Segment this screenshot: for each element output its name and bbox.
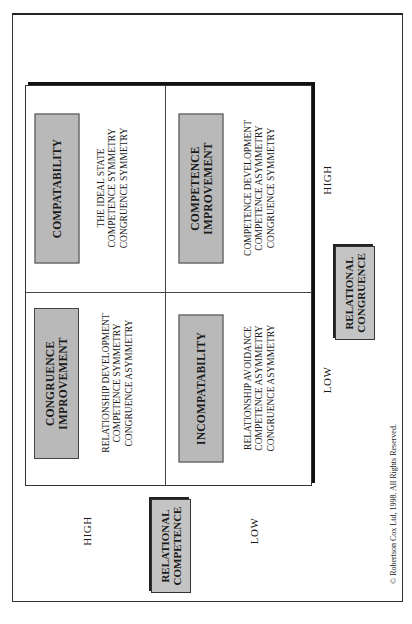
quadrant-incompatability-box: INCOMPATABILITY	[178, 314, 223, 462]
quadrant-title-line: CONGRUENCE	[44, 341, 57, 426]
quadrant-incompatability-description: RELATIONSHIP AVOIDANCE COMPETENCE ASYMME…	[240, 313, 280, 463]
relational-congruence-axis-box: RELATIONAL CONGRUENCE	[335, 246, 375, 340]
copyright-text: © Robertson Cox Ltd, 1998. All Rights Re…	[389, 424, 398, 584]
axis-title-line: CONGRUENCE	[355, 253, 368, 332]
relational-competence-axis-box: RELATIONAL COMPETENCE	[151, 499, 191, 593]
quadrant-compatability-box: COMPATABILITY	[34, 113, 79, 263]
description-line: CONGRUENCE SYMMETRY	[119, 128, 131, 249]
quadrant-title-line: COMPETENCE	[188, 146, 201, 230]
description-line: RELATIONSHIP DEVELOPMENT	[101, 313, 113, 452]
axis-tick-label: LOW	[321, 367, 333, 394]
quadrant-title-line: IMPROVEMENT	[57, 337, 70, 429]
description-line: CONGRUENCE SYMMETRY	[266, 128, 278, 249]
axis-tick-label: HIGH	[81, 516, 93, 546]
competence-high-label: HIGH	[79, 509, 95, 553]
competence-low-label: LOW	[246, 511, 262, 551]
quadrant-title: COMPATABILITY	[50, 138, 63, 238]
description-line: THE IDEAL STATE	[96, 148, 108, 227]
axis-title-line: COMPETENCE	[171, 506, 184, 585]
quadrant-title: INCOMPATABILITY	[194, 332, 207, 445]
quadrant-congruence-improvement-description: RELATIONSHIP DEVELOPMENT COMPETENCE SYMM…	[98, 308, 138, 458]
axis-tick-label: HIGH	[321, 165, 333, 195]
quadrant-congruence-improvement-box: CONGRUENCE IMPROVEMENT	[34, 308, 79, 459]
description-line: CONGRUENCE ASYMMETRY	[124, 320, 136, 447]
description-line: COMPETENCE SYMMETRY	[107, 128, 119, 247]
matrix-horizontal-divider	[25, 292, 312, 293]
quadrant-competence-improvement-box: COMPETENCE IMPROVEMENT	[178, 113, 223, 263]
description-line: COMPETENCE DEVELOPMENT	[243, 120, 255, 256]
matrix-vertical-divider	[165, 85, 166, 486]
description-line: RELATIONSHIP AVOIDANCE	[243, 326, 255, 450]
axis-title-line: RELATIONAL	[159, 509, 172, 582]
congruence-high-label: HIGH	[319, 158, 335, 202]
axis-title-line: RELATIONAL	[343, 256, 356, 329]
axis-tick-label: LOW	[248, 518, 260, 545]
quadrant-competence-improvement-description: COMPETENCE DEVELOPMENT COMPETENCE ASYMME…	[240, 113, 280, 263]
quadrant-compatability-description: THE IDEAL STATE COMPETENCE SYMMETRY CONG…	[93, 118, 133, 258]
congruence-low-label: LOW	[319, 360, 335, 400]
copyright-notice: © Robertson Cox Ltd, 1998. All Rights Re…	[387, 404, 399, 604]
description-line: COMPETENCE ASYMMETRY	[254, 125, 266, 250]
quadrant-title-line: IMPROVEMENT	[201, 142, 214, 234]
description-line: COMPETENCE SYMMETRY	[112, 323, 124, 442]
description-line: COMPETENCE ASYMMETRY	[254, 325, 266, 450]
description-line: CONGRUENCE ASYMMETRY	[266, 325, 278, 452]
